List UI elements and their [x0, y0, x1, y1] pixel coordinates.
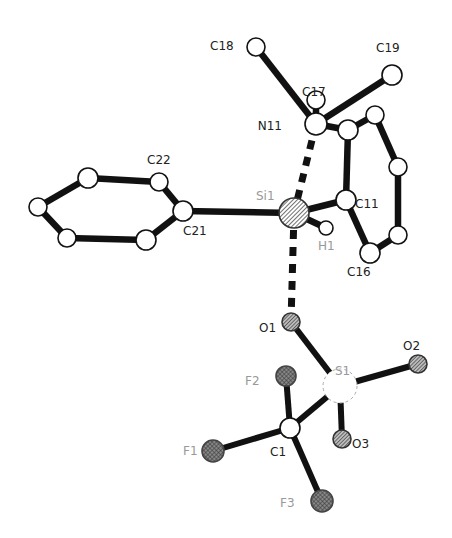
atom-c25: [58, 229, 76, 247]
atom-o1: [282, 313, 300, 331]
atom-c11: [336, 190, 356, 210]
atom-c13: [366, 106, 384, 124]
label-c1: C1: [270, 445, 286, 459]
atom-o3: [333, 430, 351, 448]
atom-c16: [360, 243, 380, 263]
label-c16: C16: [347, 265, 371, 279]
label-f2: F2: [245, 374, 260, 388]
label-o3: O3: [352, 437, 369, 451]
bond-c25-c26: [67, 238, 146, 240]
atom-f3: [311, 490, 333, 512]
label-f3: F3: [280, 496, 295, 510]
atom-si1: [279, 198, 309, 228]
atom-h1: [319, 221, 333, 235]
label-c22: C22: [147, 153, 171, 167]
atom-c23: [78, 168, 98, 188]
bond-si1-o1-dashed: [291, 213, 294, 322]
label-s1: S1: [335, 364, 350, 378]
atom-f1: [202, 440, 224, 462]
label-f1: F1: [183, 444, 198, 458]
atom-c14: [389, 158, 407, 176]
bond-c1-f3: [290, 428, 322, 501]
atom-c26: [136, 230, 156, 250]
label-h1: H1: [318, 239, 335, 253]
atom-c15: [389, 226, 407, 244]
atom-f2: [276, 366, 296, 386]
label-c17: C17: [302, 85, 326, 99]
atom-n11: [305, 113, 327, 135]
atom-c18: [247, 38, 265, 56]
atom-c22: [150, 173, 168, 191]
bond-si1-c21: [183, 211, 294, 213]
label-si1: Si1: [256, 189, 275, 203]
atom-c12: [338, 120, 358, 140]
label-c19: C19: [376, 41, 400, 55]
label-n11: N11: [258, 119, 282, 133]
label-c18: C18: [210, 39, 234, 53]
label-c11: C11: [355, 197, 379, 211]
label-c21: C21: [183, 224, 207, 238]
ortep-plot: N11C17C18C19Si1H1C11C16C21C22O1S1O2O3C1F…: [0, 0, 452, 538]
atom-c21: [173, 201, 193, 221]
atom-o2: [409, 355, 427, 373]
molecular-structure-diagram: N11C17C18C19Si1H1C11C16C21C22O1S1O2O3C1F…: [0, 0, 452, 538]
atom-c19: [382, 65, 402, 85]
atom-c24: [29, 198, 47, 216]
label-o1: O1: [259, 321, 276, 335]
atom-c1: [280, 418, 300, 438]
label-o2: O2: [403, 339, 420, 353]
